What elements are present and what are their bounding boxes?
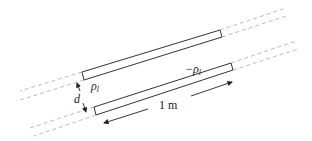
lower-charge-label: −ρl — [185, 62, 202, 77]
length-label: 1 m — [159, 98, 178, 112]
upper-charge-label: ρl — [90, 79, 100, 94]
two-line-charge-diagram: ρl −ρl d 1 m — [0, 0, 312, 141]
separation-label: d — [74, 92, 81, 106]
